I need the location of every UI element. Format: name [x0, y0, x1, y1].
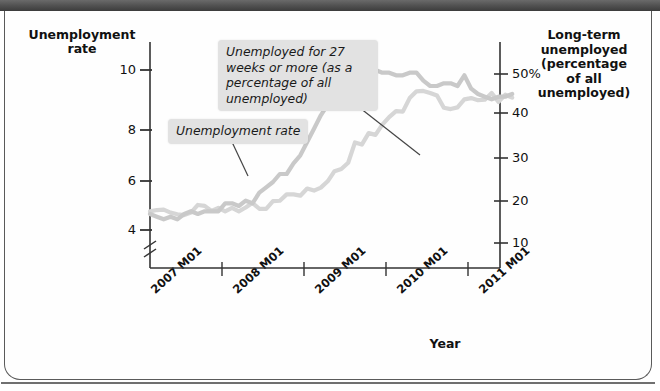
- callout-long-term-unemployed: Unemployed for 27 weeks or more (as a pe…: [218, 40, 378, 111]
- x-ticks: [222, 262, 468, 276]
- leader-line-unemployment-rate: [232, 142, 248, 176]
- figure-container: Unemploymentrate Long-termunemployed(per…: [0, 0, 660, 391]
- callout-unemployment-rate: Unemployment rate: [168, 119, 308, 144]
